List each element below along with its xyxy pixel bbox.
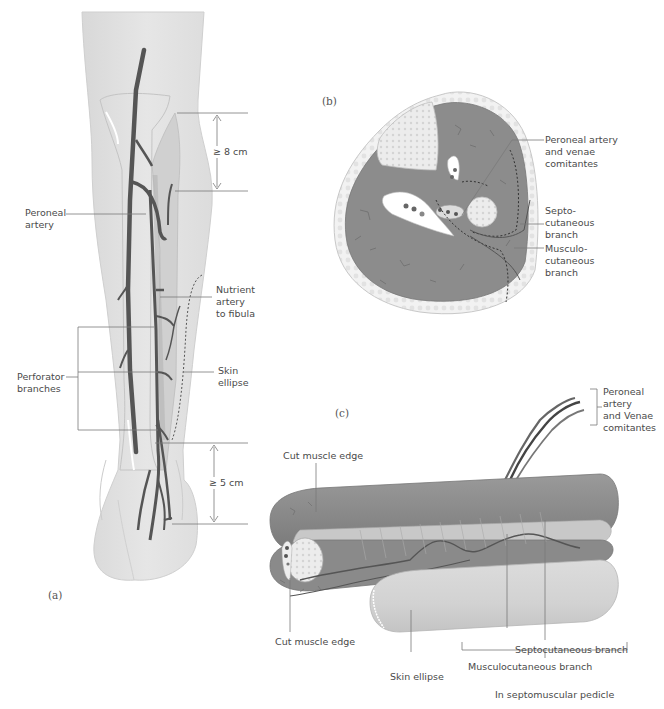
panel-label-b: (b) [322,95,337,107]
measurement-proximal: ≥ 8 cm [212,146,249,158]
panel-label-a: (a) [48,589,62,601]
label-musculocutaneous-branch-c: Musculocutaneous branch [468,661,592,673]
label-septocutaneous-b: Septo- cutaneous branch [545,205,594,241]
label-cut-muscle-edge-bottom: Cut muscle edge [275,636,355,648]
label-septomuscular-pedicle: In septomuscular pedicle [495,689,614,701]
cross-section-illustration [334,92,538,314]
label-septocutaneous-branch-c: Septocutaneous branch [515,644,628,656]
label-peroneal-artery: Peroneal artery [25,207,66,231]
leg-illustration [82,12,212,580]
label-peroneal-artery-venae-b: Peroneal artery and venae comitantes [545,134,618,170]
label-cut-muscle-edge-top: Cut muscle edge [283,450,363,462]
label-peroneal-artery-venae-c: Peroneal artery and Venae comitantes [603,386,656,434]
label-musculocutaneous-b: Musculo- cutaneous branch [545,243,594,279]
flap-illustration [270,398,618,632]
label-perforator-branches: Perforator branches [17,371,64,395]
label-skin-ellipse-a: Skin ellipse [218,365,249,389]
measurement-distal: ≥ 5 cm [208,477,245,489]
panel-label-c: (c) [335,407,349,419]
label-nutrient-artery: Nutrient artery to fibula [216,284,255,320]
label-skin-ellipse-c: Skin ellipse [390,671,444,683]
